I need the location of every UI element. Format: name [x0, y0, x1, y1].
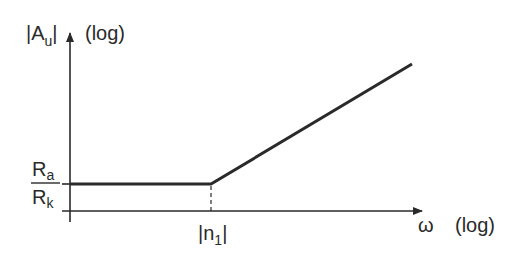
y-axis-scale: (log) [85, 22, 125, 44]
x-axis-scale: (log) [455, 214, 495, 236]
level-numerator: Ra [32, 158, 54, 183]
x-axis-label: ω [418, 214, 434, 236]
magnitude-curve [70, 64, 412, 184]
y-axis-label: |Au| [26, 22, 58, 49]
breakpoint-label: |n1| [198, 222, 227, 248]
level-denominator: Rk [32, 186, 54, 211]
bode-diagram: |Au| (log) Ra Rk |n1| ω (log) [0, 0, 526, 257]
